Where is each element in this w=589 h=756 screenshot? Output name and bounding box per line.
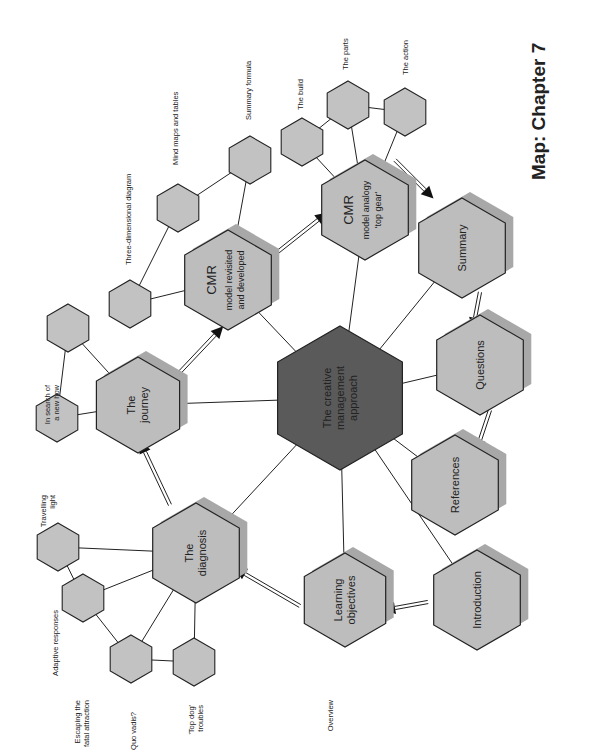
svg-text:The parts: The parts [341, 38, 350, 70]
node-label-references: References [449, 456, 461, 513]
leaf-label-parts: The parts [341, 38, 350, 70]
hexagon-shape [37, 523, 79, 571]
svg-text:Summary: Summary [456, 224, 468, 272]
svg-text:model revisited: model revisited [224, 250, 234, 311]
leaf-label-overview: Overview [326, 699, 335, 731]
flow-arrow [179, 326, 223, 373]
svg-text:Three-dimensional diagram: Three-dimensional diagram [124, 174, 133, 265]
leaf-label-mind-maps: Mind maps and tables [171, 91, 180, 165]
leaf-label-build: The build [296, 79, 305, 110]
leaf-label-three-d: Three-dimensional diagram [124, 174, 133, 265]
node-search [47, 304, 89, 352]
svg-text:The: The [125, 396, 137, 415]
flow-arrow [235, 568, 301, 607]
svg-text:In search of: In search of [43, 384, 52, 424]
hexagon-shape [109, 280, 151, 328]
leaf-label-summary-formula: Summary formula [244, 60, 253, 120]
hexagon-shape [157, 184, 199, 232]
leaf-label-travelling: Travellinglight [39, 494, 57, 527]
node-escaping [62, 574, 104, 622]
node-parts [327, 81, 369, 129]
node-summary-formula [229, 136, 271, 184]
node-action [384, 88, 426, 136]
hexagon-shape [281, 118, 323, 166]
page-title: Map: Chapter 7 [528, 43, 549, 180]
leaf-label-adaptive: Adaptive responses [51, 610, 60, 676]
hexagon-shape [110, 635, 152, 683]
node-top-dog [173, 638, 215, 686]
leaf-label-escaping: Escaping thefatal attraction [73, 700, 91, 747]
svg-text:Travelling: Travelling [39, 495, 48, 527]
mind-map-canvas: The creativemanagementapproachIntroducti… [0, 0, 589, 756]
svg-text:Summary formula: Summary formula [244, 60, 253, 120]
hexagon-shape [384, 88, 426, 136]
svg-text:light: light [48, 494, 57, 509]
svg-text:a new how: a new how [52, 384, 61, 420]
svg-text:Questions: Questions [474, 340, 486, 390]
svg-text:Learning: Learning [332, 579, 344, 622]
svg-text:Introduction: Introduction [471, 571, 483, 628]
svg-text:management: management [334, 366, 346, 430]
node-build [281, 118, 323, 166]
leaf-label-quo-vadis: Quo vadis? [129, 712, 138, 750]
svg-text:References: References [449, 456, 461, 513]
hexagon-shape [327, 81, 369, 129]
svg-text:diagnosis: diagnosis [196, 529, 208, 576]
svg-text:Adaptive responses: Adaptive responses [51, 610, 60, 676]
chapter-map: The creativemanagementapproachIntroducti… [0, 0, 589, 756]
svg-text:The build: The build [296, 79, 305, 110]
svg-text:fatal attraction: fatal attraction [82, 700, 91, 747]
node-label-introduction: Introduction [471, 571, 483, 628]
svg-text:CMR: CMR [341, 195, 356, 225]
svg-text:approach: approach [347, 375, 359, 421]
svg-text:and developed: and developed [236, 250, 246, 309]
flow-arrow [140, 441, 172, 506]
svg-text:Overview: Overview [326, 699, 335, 731]
svg-text:objectives: objectives [345, 575, 357, 624]
node-three-d [109, 280, 151, 328]
node-label-learning-objectives: Learningobjectives [332, 575, 357, 624]
center-label: The creativemanagementapproach [321, 366, 359, 430]
leaf-label-action: The action [401, 40, 410, 75]
svg-text:Mind maps and tables: Mind maps and tables [171, 91, 180, 165]
hexagon-shape [47, 304, 89, 352]
svg-text:Escaping the: Escaping the [73, 700, 82, 743]
svg-text:journey: journey [138, 386, 150, 424]
node-label-questions: Questions [474, 340, 486, 390]
svg-text:model analogy: model analogy [361, 180, 371, 239]
svg-text:The: The [183, 544, 195, 563]
node-quo-vadis [110, 635, 152, 683]
hexagon-shape [62, 574, 104, 622]
svg-text:troubles: troubles [196, 705, 205, 732]
svg-text:Map: Chapter 7: Map: Chapter 7 [528, 43, 549, 180]
svg-text:Quo vadis?: Quo vadis? [129, 712, 138, 750]
node-label-summary: Summary [456, 224, 468, 272]
hexagon-shape [229, 136, 271, 184]
node-adaptive [37, 523, 79, 571]
hexagon-shape [173, 638, 215, 686]
svg-text:The creative: The creative [321, 368, 333, 429]
svg-text:'top gear': 'top gear' [373, 191, 383, 228]
svg-text:'Top dog': 'Top dog' [187, 704, 196, 734]
leaf-label-search: In search ofa new how [43, 384, 61, 424]
leaf-label-top-dog: 'Top dog'troubles [187, 704, 205, 734]
node-mind-maps [157, 184, 199, 232]
svg-text:The action: The action [401, 40, 410, 75]
svg-text:CMR: CMR [204, 265, 219, 295]
